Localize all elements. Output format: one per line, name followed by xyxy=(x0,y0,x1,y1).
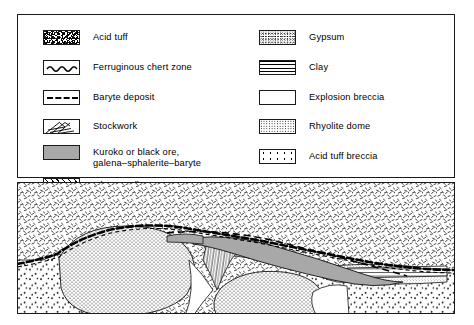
legend-item-gypsum: Gypsum xyxy=(259,30,345,45)
legend-label-acid-tuff: Acid tuff xyxy=(93,30,128,43)
legend-label-ferruginous-chert-zone: Ferruginous chert zone xyxy=(93,60,192,73)
acid-tuff-breccia-swatch-icon xyxy=(259,149,296,164)
legend-item-baryte-deposit: Baryte deposit xyxy=(43,90,155,105)
legend-item-clay: Clay xyxy=(259,60,328,75)
explosion-breccia-swatch-icon xyxy=(259,90,296,105)
baryte-deposit-swatch-icon xyxy=(43,90,80,105)
ferruginous-chert-zone-swatch-icon xyxy=(43,60,80,75)
legend-item-explosion-breccia: Explosion breccia xyxy=(259,90,384,105)
legend-panel: Acid tuff Ferruginous chert zone Baryte … xyxy=(17,14,455,178)
legend-label-stockwork: Stockwork xyxy=(93,119,137,132)
legend-label-kuroko-line1: Kuroko or black ore, xyxy=(93,147,179,157)
legend-label-explosion-breccia: Explosion breccia xyxy=(309,90,384,103)
stockwork-swatch-icon xyxy=(43,119,80,134)
figure-root: Acid tuff Ferruginous chert zone Baryte … xyxy=(0,0,474,325)
legend-label-rhyolite-dome: Rhyolite dome xyxy=(309,119,370,132)
cross-section-drawing xyxy=(17,182,455,314)
legend-label-kuroko-black-ore: Kuroko or black ore,galena–sphalerite–ba… xyxy=(93,145,201,168)
legend-label-baryte-deposit: Baryte deposit xyxy=(93,90,155,103)
legend-label-kuroko-line2: galena–sphalerite–baryte xyxy=(93,158,201,168)
legend-item-rhyolite-dome: Rhyolite dome xyxy=(259,119,370,134)
unit-explosion-breccia-right xyxy=(312,285,349,314)
rhyolite-dome-swatch-icon xyxy=(259,119,296,134)
legend-label-acid-tuff-breccia: Acid tuff breccia xyxy=(309,149,378,162)
kuroko-black-ore-swatch-icon xyxy=(43,145,80,160)
acid-tuff-swatch-icon xyxy=(43,30,80,45)
legend-label-clay: Clay xyxy=(309,60,328,73)
legend-item-acid-tuff-breccia: Acid tuff breccia xyxy=(259,149,378,164)
legend-item-stockwork: Stockwork xyxy=(43,119,137,134)
legend-item-ferruginous-chert-zone: Ferruginous chert zone xyxy=(43,60,192,75)
clay-swatch-icon xyxy=(259,60,296,75)
cross-section-panel xyxy=(17,182,455,314)
legend-label-gypsum: Gypsum xyxy=(309,30,345,43)
legend-item-kuroko-black-ore: Kuroko or black ore,galena–sphalerite–ba… xyxy=(43,145,201,168)
gypsum-swatch-icon xyxy=(259,30,296,45)
legend-item-acid-tuff: Acid tuff xyxy=(43,30,128,45)
